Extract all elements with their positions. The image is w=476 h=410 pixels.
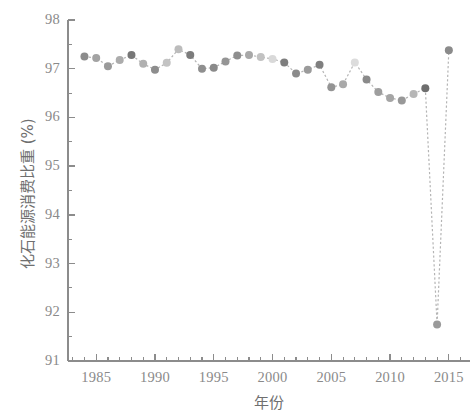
x-tick-label: 1990 bbox=[129, 369, 181, 386]
y-tick-label: 98 bbox=[24, 11, 60, 28]
data-point: 2011: 96.35% bbox=[398, 96, 406, 104]
data-point: 2009: 96.52% bbox=[374, 88, 382, 96]
data-series: 1984: 97.25%1985: 97.22%1986: 97.05%1987… bbox=[80, 45, 452, 328]
data-point: 1997: 97.27% bbox=[233, 52, 241, 60]
data-point: 2007: 97.13% bbox=[351, 58, 359, 66]
data-point: 1998: 97.28% bbox=[245, 51, 253, 59]
data-point: 2015: 97.38% bbox=[445, 46, 453, 54]
data-point: 1992: 97.4% bbox=[174, 45, 182, 53]
data-point: 2003: 96.98% bbox=[304, 66, 312, 74]
y-axis-label: 化石能源消费比重 (%) bbox=[16, 118, 37, 269]
x-tick-label: 2005 bbox=[305, 369, 357, 386]
x-tick-label: 1995 bbox=[188, 369, 240, 386]
fossil-energy-share-chart: 1984: 97.25%1985: 97.22%1986: 97.05%1987… bbox=[0, 0, 476, 410]
y-tick-label: 91 bbox=[24, 352, 60, 369]
series-connector-line bbox=[84, 49, 448, 324]
x-tick-label: 2000 bbox=[247, 369, 299, 386]
data-point: 1996: 97.15% bbox=[222, 57, 230, 65]
x-axis-label: 年份 bbox=[209, 391, 329, 410]
data-point: 1994: 97% bbox=[198, 65, 206, 73]
y-tick-label: 97 bbox=[24, 60, 60, 77]
data-point: 2006: 96.68% bbox=[339, 80, 347, 88]
data-point: 2001: 97.13% bbox=[280, 58, 288, 66]
data-point: 1995: 97.02% bbox=[210, 64, 218, 72]
data-point: 1990: 96.98% bbox=[151, 66, 159, 74]
data-point: 1993: 97.28% bbox=[186, 51, 194, 59]
x-tick-label: 2015 bbox=[423, 369, 475, 386]
data-point: 2005: 96.62% bbox=[327, 83, 335, 91]
x-tick-label: 1985 bbox=[70, 369, 122, 386]
data-point: 1999: 97.24% bbox=[257, 53, 265, 61]
data-point: 1988: 97.28% bbox=[127, 51, 135, 59]
data-point: 2014: 91.75% bbox=[433, 320, 441, 328]
data-point: 1991: 97.12% bbox=[163, 59, 171, 67]
data-point: 1985: 97.22% bbox=[92, 54, 100, 62]
data-point: 2002: 96.9% bbox=[292, 70, 300, 78]
x-tick-label: 2010 bbox=[364, 369, 416, 386]
chart-canvas: 1984: 97.25%1985: 97.22%1986: 97.05%1987… bbox=[0, 0, 476, 410]
data-point: 2000: 97.2% bbox=[269, 55, 277, 63]
y-tick-label: 92 bbox=[24, 303, 60, 320]
data-point: 2012: 96.48% bbox=[410, 90, 418, 98]
data-point: 2004: 97.08% bbox=[316, 61, 324, 69]
data-point: 1987: 97.18% bbox=[116, 56, 124, 64]
data-point: 1989: 97.1% bbox=[139, 60, 147, 68]
axes bbox=[68, 20, 470, 361]
data-point: 2010: 96.4% bbox=[386, 94, 394, 102]
data-point: 2008: 96.78% bbox=[363, 75, 371, 83]
data-point: 1986: 97.05% bbox=[104, 62, 112, 70]
data-point: 2013: 96.6% bbox=[421, 84, 429, 92]
data-point: 1984: 97.25% bbox=[80, 53, 88, 61]
